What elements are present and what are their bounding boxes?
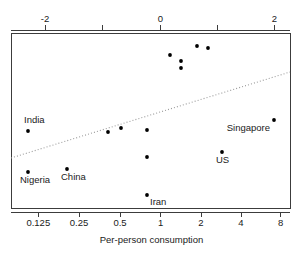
data-point [106,130,110,134]
data-point: US [216,150,229,165]
point-marker [179,59,183,63]
point-marker [145,193,149,197]
data-point [145,155,149,159]
data-point: China [61,167,87,182]
data-point [168,53,172,57]
point-label: India [24,114,45,125]
scatter-plot-figure: -202 0.1250.250.51248 IndiaNigeriaChinaI… [0,0,298,256]
point-label: Singapore [227,122,270,133]
top-axis-tick-label: 0 [158,13,163,24]
plot-canvas: -202 0.1250.250.51248 IndiaNigeriaChinaI… [0,0,298,256]
point-marker [168,53,172,57]
point-marker [26,129,30,133]
bottom-axis-tick-label: 0.5 [113,217,126,228]
data-point [179,59,183,63]
bottom-axis-tick-label: 2 [198,217,203,228]
top-axis-tick-label: -2 [41,13,49,24]
data-points-group: IndiaNigeriaChinaIranUSSingapore [20,44,276,207]
point-label: China [61,171,87,182]
data-point [195,44,199,48]
top-axis: -202 [11,13,290,30]
bottom-axis-tick-label: 0.125 [26,217,50,228]
data-point [119,126,123,130]
bottom-axis: 0.1250.250.51248 [11,212,290,228]
point-marker [119,126,123,130]
point-label: US [216,154,229,165]
data-point: India [24,114,45,133]
data-point [145,128,149,132]
plot-frame [11,33,290,208]
top-axis-tick-label: 2 [272,13,277,24]
point-marker [179,66,183,70]
data-point: Singapore [227,118,276,133]
point-marker [272,118,276,122]
point-marker [195,44,199,48]
data-point [179,66,183,70]
bottom-axis-tick-label: 8 [278,217,283,228]
point-marker [106,130,110,134]
point-marker [206,46,210,50]
trend-line [11,72,290,158]
point-label: Nigeria [20,174,51,185]
bottom-axis-tick-label: 4 [238,217,243,228]
x-axis-title: Per-person consumption [100,234,204,245]
bottom-axis-tick-label: 1 [158,217,163,228]
point-marker [145,128,149,132]
bottom-axis-tick-label: 0.25 [70,217,89,228]
point-label: Iran [150,196,166,207]
data-point [206,46,210,50]
point-marker [145,155,149,159]
data-point: Nigeria [20,170,51,185]
data-point: Iran [145,193,166,207]
